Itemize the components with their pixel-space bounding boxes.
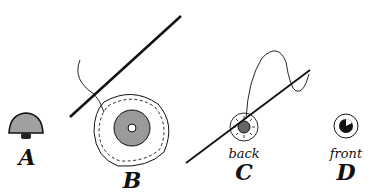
panel-d-label: D <box>333 161 359 183</box>
illustration-canvas <box>0 0 384 195</box>
fabric-circle-icon <box>94 94 169 166</box>
needle-icon <box>70 16 181 117</box>
panel-a-label: A <box>14 146 40 168</box>
shank-button-icon <box>9 113 43 139</box>
panel-b-label: B <box>119 169 145 191</box>
thread-icon <box>78 60 104 112</box>
finished-button-icon <box>334 114 358 138</box>
panel-c-label: C <box>231 161 257 183</box>
thread-icon <box>246 51 309 119</box>
